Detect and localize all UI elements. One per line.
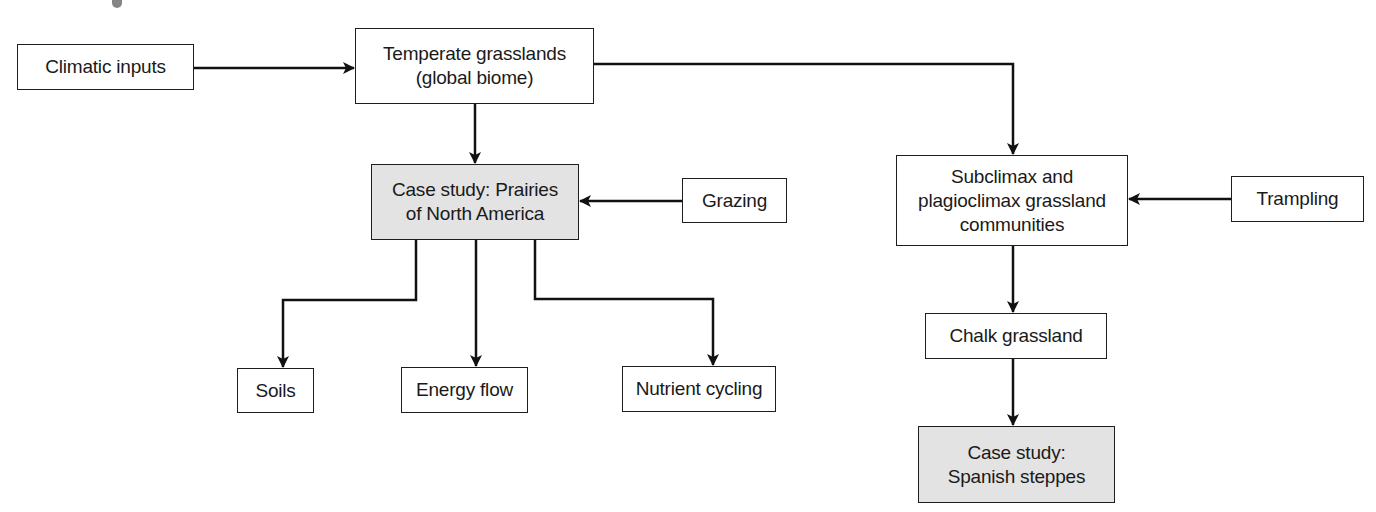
- node-label: Case study: Prairies of North America: [392, 178, 558, 226]
- node-nutrient-cycling: Nutrient cycling: [622, 366, 776, 412]
- connector-layer: [0, 0, 1376, 512]
- node-temperate-grasslands: Temperate grasslands (global biome): [355, 28, 594, 104]
- node-label: Case study: Spanish steppes: [948, 441, 1086, 489]
- node-label: Soils: [255, 379, 295, 403]
- node-grazing: Grazing: [682, 178, 787, 223]
- node-case-study-spanish-steppes: Case study: Spanish steppes: [918, 426, 1115, 503]
- edge-temperate-to-subclimax: [594, 64, 1013, 154]
- node-label: Climatic inputs: [45, 55, 166, 79]
- node-label: Chalk grassland: [949, 324, 1082, 348]
- node-subclimax-plagioclimax: Subclimax and plagioclimax grassland com…: [896, 155, 1128, 246]
- node-label: Energy flow: [416, 378, 513, 402]
- node-label: Trampling: [1257, 187, 1339, 211]
- node-soils: Soils: [237, 368, 314, 413]
- edge-prairies-to-nutrient: [535, 240, 713, 365]
- node-label: Nutrient cycling: [636, 377, 763, 401]
- node-energy-flow: Energy flow: [401, 367, 528, 413]
- node-chalk-grassland: Chalk grassland: [925, 313, 1107, 359]
- node-case-study-prairies: Case study: Prairies of North America: [371, 164, 579, 240]
- node-label: Temperate grasslands (global biome): [383, 42, 566, 90]
- node-climatic-inputs: Climatic inputs: [17, 44, 194, 90]
- node-label: Subclimax and plagioclimax grassland com…: [918, 165, 1106, 237]
- edge-prairies-to-soils: [283, 240, 416, 367]
- node-label: Grazing: [702, 189, 767, 213]
- node-trampling: Trampling: [1231, 176, 1364, 222]
